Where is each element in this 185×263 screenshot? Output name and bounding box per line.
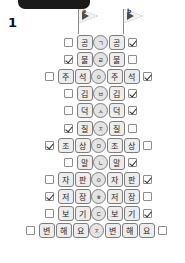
right-checkbox[interactable] [143, 72, 152, 81]
connector-node[interactable]: ㅂ [93, 86, 108, 101]
left-checkbox[interactable] [64, 38, 73, 47]
syllable-tile[interactable]: 공 [77, 35, 93, 50]
right-checkbox[interactable] [143, 175, 152, 184]
right-checkbox[interactable] [143, 209, 152, 218]
syllable-tile[interactable]: 저 [58, 189, 74, 204]
syllable-tile[interactable]: 요 [139, 223, 155, 238]
table-row: 조상ㅁ조상 [45, 137, 152, 154]
right-checkbox[interactable] [143, 192, 152, 201]
syllable-tile[interactable]: 장 [124, 189, 140, 204]
left-checkbox[interactable] [26, 226, 35, 235]
syllable-tile[interactable]: 변 [105, 223, 121, 238]
flag-marker-a[interactable]: a [75, 8, 101, 34]
connector-node[interactable]: ㅇ [91, 172, 106, 187]
connector-node[interactable]: ㅅ [93, 103, 108, 118]
left-checkbox[interactable] [45, 209, 54, 218]
syllable-tile[interactable]: 해 [122, 223, 138, 238]
syllable-tile[interactable]: 요 [73, 223, 89, 238]
left-checkbox[interactable] [64, 124, 73, 133]
table-row: 질ㅈ질 [64, 120, 137, 137]
connector-node[interactable]: ㅇ [91, 69, 106, 84]
table-row: 덕ㅅ덕 [64, 102, 137, 119]
connector-node[interactable]: ㄹ [93, 52, 108, 67]
table-row: 공ㄱ공 [64, 34, 137, 51]
screen-root: 1 ab 공ㄱ공불ㄹ불주석ㅇ주석김ㅂ김덕ㅅ덕질ㅈ질조상ㅁ조상말ㄴ말자판ㅇ자판저장… [0, 0, 185, 263]
syllable-tile[interactable]: 불 [77, 52, 93, 67]
syllable-tile[interactable]: 석 [75, 69, 91, 84]
left-checkbox[interactable] [45, 192, 54, 201]
connector-node[interactable]: ㅈ [89, 223, 104, 238]
flag-marker-b[interactable]: b [120, 8, 146, 34]
connector-node[interactable]: ㄱ [93, 35, 108, 50]
table-row: 불ㄹ불 [64, 51, 137, 68]
syllable-tile[interactable]: 보 [58, 206, 74, 221]
right-checkbox[interactable] [128, 124, 137, 133]
syllable-tile[interactable]: 주 [107, 69, 123, 84]
syllable-tile[interactable]: 석 [124, 69, 140, 84]
connector-node[interactable]: ㅎ [91, 189, 106, 204]
syllable-tile[interactable]: 자 [58, 172, 74, 187]
syllable-tile[interactable]: 기 [124, 206, 140, 221]
syllable-tile[interactable]: 불 [109, 52, 125, 67]
connector-node[interactable]: ㄷ [91, 206, 106, 221]
syllable-tile[interactable]: 장 [75, 189, 91, 204]
left-checkbox[interactable] [64, 55, 73, 64]
right-checkbox[interactable] [143, 141, 152, 150]
syllable-tile[interactable]: 판 [124, 172, 140, 187]
table-row: 보기ㄷ보기 [45, 205, 152, 222]
flag-label: a [82, 7, 86, 14]
step-number: 1 [8, 16, 17, 29]
syllable-tile[interactable]: 저 [107, 189, 123, 204]
syllable-tile[interactable]: 질 [109, 121, 125, 136]
left-checkbox[interactable] [45, 72, 54, 81]
syllable-tile[interactable]: 덕 [77, 103, 93, 118]
syllable-tile[interactable]: 기 [75, 206, 91, 221]
table-row: 주석ㅇ주석 [45, 68, 152, 85]
syllable-tile[interactable]: 김 [77, 86, 93, 101]
syllable-tile[interactable]: 판 [75, 172, 91, 187]
left-checkbox[interactable] [64, 89, 73, 98]
syllable-tile[interactable]: 보 [107, 206, 123, 221]
syllable-tile[interactable]: 해 [56, 223, 72, 238]
connector-node[interactable]: ㅁ [91, 138, 106, 153]
left-checkbox[interactable] [64, 158, 73, 167]
syllable-tile[interactable]: 질 [77, 121, 93, 136]
syllable-tile[interactable]: 김 [109, 86, 125, 101]
syllable-tile[interactable]: 조 [107, 138, 123, 153]
right-checkbox[interactable] [158, 226, 167, 235]
right-checkbox[interactable] [128, 38, 137, 47]
syllable-tile[interactable]: 말 [77, 155, 93, 170]
right-checkbox[interactable] [128, 106, 137, 115]
flag-label: b [127, 7, 131, 14]
syllable-tile[interactable]: 상 [124, 138, 140, 153]
right-checkbox[interactable] [128, 89, 137, 98]
syllable-tile[interactable]: 주 [58, 69, 74, 84]
table-row: 김ㅂ김 [64, 85, 137, 102]
syllable-tile[interactable]: 자 [107, 172, 123, 187]
left-checkbox[interactable] [45, 141, 54, 150]
syllable-tile[interactable]: 덕 [109, 103, 125, 118]
syllable-tile[interactable]: 조 [58, 138, 74, 153]
right-checkbox[interactable] [128, 55, 137, 64]
left-checkbox[interactable] [45, 175, 54, 184]
table-row: 변해요ㅈ변해요 [26, 222, 167, 239]
connector-node[interactable]: ㅈ [93, 121, 108, 136]
right-checkbox[interactable] [128, 158, 137, 167]
left-checkbox[interactable] [64, 106, 73, 115]
syllable-tile[interactable]: 공 [109, 35, 125, 50]
syllable-tile[interactable]: 상 [75, 138, 91, 153]
connector-node[interactable]: ㄴ [93, 155, 108, 170]
table-row: 저장ㅎ저장 [45, 188, 152, 205]
syllable-tile[interactable]: 말 [109, 155, 125, 170]
table-row: 말ㄴ말 [64, 154, 137, 171]
table-row: 자판ㅇ자판 [45, 171, 152, 188]
syllable-tile[interactable]: 변 [39, 223, 55, 238]
